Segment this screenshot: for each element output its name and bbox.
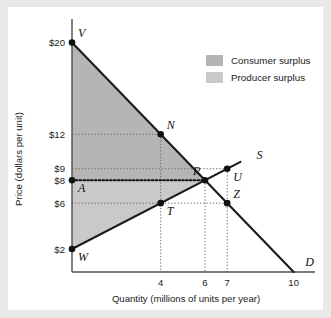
point-dot-V [69, 39, 76, 46]
point-label-V: V [78, 26, 87, 40]
legend-swatch-producer-surplus [206, 72, 223, 83]
point-dot-N [157, 131, 164, 138]
y-tick-8: $8 [54, 175, 65, 186]
y-tick-20: $20 [49, 37, 65, 48]
supply-demand-chart: VNRUZTAWSD $20$12$9$8$6$2 46710 Price (d… [8, 7, 323, 310]
point-label-U: U [233, 170, 243, 184]
chart-plot-area: VNRUZTAWSD $20$12$9$8$6$2 46710 Price (d… [8, 7, 323, 310]
point-label-A: A [77, 181, 86, 195]
point-label-D: D [304, 255, 314, 269]
legend-label-consumer-surplus: Consumer surplus [231, 55, 311, 66]
y-axis-title: Price (dollars per unit) [13, 112, 24, 206]
y-tick-12: $12 [49, 129, 65, 140]
point-label-N: N [166, 118, 176, 132]
y-tick-2: $2 [54, 244, 65, 255]
chart-legend: Consumer surplusProducer surplus [206, 55, 311, 83]
point-label-Z: Z [233, 187, 240, 201]
point-dot-T [157, 200, 164, 207]
chart-card: VNRUZTAWSD $20$12$9$8$6$2 46710 Price (d… [8, 7, 323, 310]
point-dot-Z [224, 200, 231, 207]
point-dot-A [69, 177, 76, 184]
x-axis-title: Quantity (millions of units per year) [112, 293, 260, 304]
point-dot-U [224, 165, 231, 172]
point-label-S: S [257, 148, 263, 162]
point-label-W: W [78, 250, 89, 264]
y-tick-9: $9 [54, 163, 65, 174]
legend-label-producer-surplus: Producer surplus [231, 72, 305, 83]
y-axis-tick-labels: $20$12$9$8$6$2 [49, 37, 65, 255]
point-label-R: R [192, 164, 201, 178]
legend-swatch-consumer-surplus [206, 55, 223, 66]
image-frame: VNRUZTAWSD $20$12$9$8$6$2 46710 Price (d… [0, 0, 331, 318]
point-dot-W [69, 246, 76, 253]
x-tick-4: 4 [158, 277, 164, 288]
point-dot-R [202, 177, 209, 184]
y-tick-6: $6 [54, 198, 65, 209]
x-tick-10: 10 [288, 277, 299, 288]
x-tick-6: 6 [202, 277, 207, 288]
x-axis-tick-labels: 46710 [158, 277, 299, 288]
point-label-T: T [167, 204, 175, 218]
x-tick-7: 7 [225, 277, 230, 288]
